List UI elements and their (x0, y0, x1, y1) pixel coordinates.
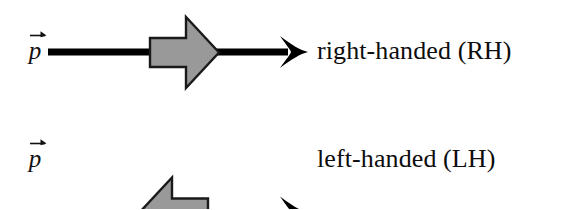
helicity-diagram: p right-handed (RH) p (0, 0, 565, 209)
spin-arrow-rh (150, 17, 219, 88)
momentum-arrowhead-lh (280, 197, 308, 210)
state-label-left-handed: left-handed (LH) (317, 146, 495, 172)
helicity-row-left-handed: p left-handed (LH) (0, 105, 565, 209)
spin-arrow-lh (139, 178, 208, 210)
helicity-row-right-handed: p right-handed (RH) (0, 0, 565, 104)
state-label-right-handed: right-handed (RH) (317, 38, 511, 64)
